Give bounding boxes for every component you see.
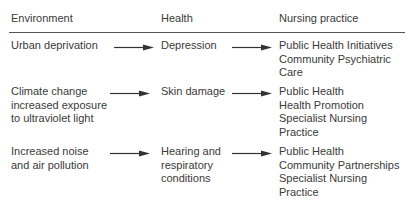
environment-cell: Climate change increased exposure to ult… <box>11 85 107 126</box>
text-line: Public Health Initiatives <box>279 39 393 53</box>
header-nursing-practice: Nursing practice <box>279 12 358 26</box>
text-line: Public Health <box>279 85 367 99</box>
nursing-cell: Public Health Health Promotion Specialis… <box>279 85 367 139</box>
text-line: Community Partnerships <box>279 159 399 173</box>
arrow-right-icon <box>114 43 154 52</box>
text-line: increased exposure <box>11 99 107 113</box>
arrow-right-icon <box>110 149 150 158</box>
text-line: Skin damage <box>161 85 225 99</box>
nursing-cell: Public Health Initiatives Community Psyc… <box>279 39 393 80</box>
health-cell: Skin damage <box>161 85 225 99</box>
text-line: Community Psychiatric <box>279 53 393 67</box>
arrow-right-icon <box>232 149 272 158</box>
health-cell: Hearing and respiratory conditions <box>161 145 221 186</box>
text-line: Depression <box>161 39 217 53</box>
health-cell: Depression <box>161 39 217 53</box>
text-line: Climate change <box>11 85 107 99</box>
header-divider <box>9 32 405 33</box>
arrow-right-icon <box>232 43 272 52</box>
text-line: Hearing and <box>161 145 221 159</box>
text-line: Increased noise <box>11 145 89 159</box>
text-line: conditions <box>161 172 221 186</box>
header-health: Health <box>161 12 193 26</box>
nursing-cell: Public Health Community Partnerships Spe… <box>279 145 399 199</box>
text-line: respiratory <box>161 159 221 173</box>
text-line: Care <box>279 66 393 80</box>
text-line: Specialist Nursing <box>279 172 399 186</box>
environment-cell: Urban deprivation <box>11 39 98 53</box>
text-line: Health Promotion <box>279 99 367 113</box>
text-line: Practice <box>279 186 399 200</box>
text-line: and air pollution <box>11 159 89 173</box>
text-line: to ultraviolet light <box>11 112 107 126</box>
text-line: Practice <box>279 126 367 140</box>
text-line: Public Health <box>279 145 399 159</box>
header-environment: Environment <box>11 12 73 26</box>
text-line: Specialist Nursing <box>279 112 367 126</box>
arrow-right-icon <box>232 89 272 98</box>
arrow-right-icon <box>110 89 150 98</box>
environment-cell: Increased noise and air pollution <box>11 145 89 172</box>
text-line: Urban deprivation <box>11 39 98 53</box>
